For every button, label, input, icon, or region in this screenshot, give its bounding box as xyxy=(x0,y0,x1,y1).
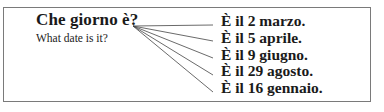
connector-lines xyxy=(0,0,384,112)
answer-item: È il 9 giugno. xyxy=(221,47,323,64)
answer-item: È il 2 marzo. xyxy=(221,13,323,30)
answer-item: È il 5 aprile. xyxy=(221,30,323,47)
connector-line xyxy=(133,25,213,26)
answer-item: È il 16 gennaio. xyxy=(221,80,323,97)
answer-item: È il 29 agosto. xyxy=(221,63,323,80)
connector-line xyxy=(133,26,213,58)
answer-list: È il 2 marzo. È il 5 aprile. È il 9 giug… xyxy=(221,13,323,97)
connector-line xyxy=(133,26,213,92)
